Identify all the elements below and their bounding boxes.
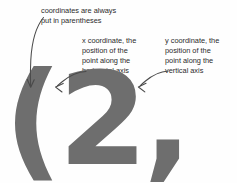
coordinate-pair-diagram: coordinates are always put in parenthese… [0,0,237,183]
coordinate-pair-text: (2, 1) [4,57,204,183]
annotation-parentheses: coordinates are always put in parenthese… [41,6,153,26]
